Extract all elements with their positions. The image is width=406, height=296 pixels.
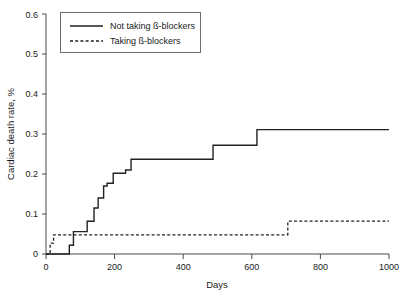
y-tick-label-0-2: 0.2 (25, 169, 38, 179)
x-tick-label-1000: 1000 (379, 262, 399, 272)
x-tick-label-600: 600 (244, 262, 259, 272)
series-not-taking-beta-blockers (46, 130, 389, 254)
y-tick-label-0-6: 0.6 (25, 10, 38, 20)
legend-label-not-taking: Not taking ß-blockers (110, 21, 196, 31)
chart-canvas: 0 0.1 0.2 0.3 0.4 0.5 0.6 0 200 400 600 … (0, 0, 406, 296)
y-tick-label-0: 0 (33, 249, 38, 259)
y-tick-label-0-3: 0.3 (25, 129, 38, 139)
series-taking-beta-blockers (46, 221, 389, 254)
x-tick-label-800: 800 (313, 262, 328, 272)
x-tick-label-0: 0 (43, 262, 48, 272)
x-tick-label-200: 200 (107, 262, 122, 272)
y-tick-group: 0 0.1 0.2 0.3 0.4 0.5 0.6 (25, 10, 46, 259)
y-axis-title: Cardiac death rate, % (5, 88, 16, 180)
y-tick-label-0-1: 0.1 (25, 209, 38, 219)
x-axis-title: Days (206, 279, 228, 290)
legend-label-taking: Taking ß-blockers (110, 36, 181, 46)
cardiac-death-rate-chart: 0 0.1 0.2 0.3 0.4 0.5 0.6 0 200 400 600 … (0, 0, 406, 296)
legend: Not taking ß-blockers Taking ß-blockers (61, 13, 201, 53)
x-tick-group: 0 200 400 600 800 1000 (43, 254, 399, 272)
y-tick-label-0-4: 0.4 (25, 89, 38, 99)
legend-border (61, 13, 201, 53)
y-tick-label-0-5: 0.5 (25, 49, 38, 59)
x-tick-label-400: 400 (176, 262, 191, 272)
